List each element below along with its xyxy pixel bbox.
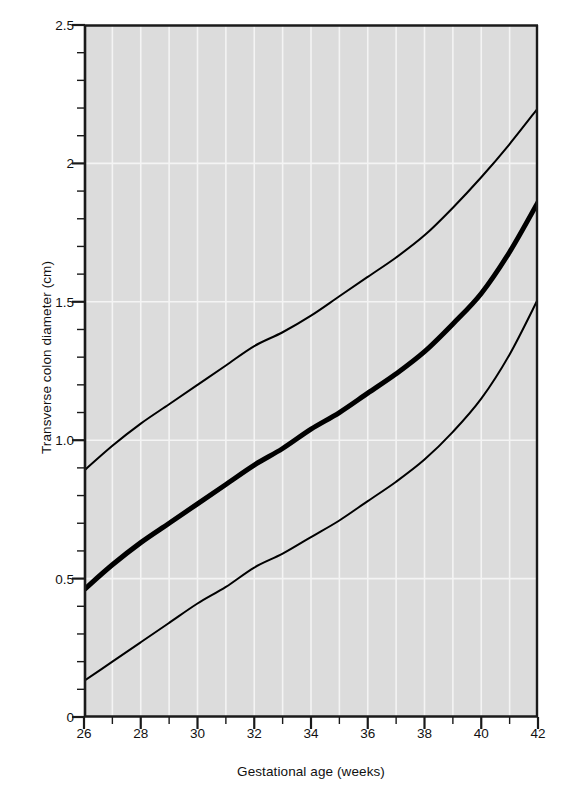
x-tick-label: 40 <box>461 726 501 741</box>
chart-figure: Transverse colon diameter (cm) 00.51.01.… <box>0 0 564 801</box>
plot-area <box>0 0 564 801</box>
x-axis-title: Gestational age (weeks) <box>84 764 538 779</box>
x-tick-label: 32 <box>234 726 274 741</box>
x-tick-label: 26 <box>64 726 104 741</box>
x-tick-label: 34 <box>291 726 331 741</box>
x-tick-label: 42 <box>518 726 558 741</box>
x-tick-label: 28 <box>121 726 161 741</box>
y-axis-ticks <box>72 25 85 717</box>
x-tick-label: 38 <box>405 726 445 741</box>
x-tick-label: 36 <box>348 726 388 741</box>
x-tick-label: 30 <box>178 726 218 741</box>
